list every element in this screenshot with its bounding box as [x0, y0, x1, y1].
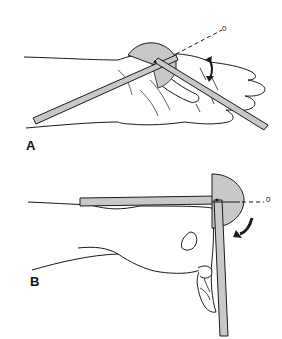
- goniometer-pivot-b: [216, 199, 219, 202]
- goniometer-stationary-arm-b: [80, 196, 218, 206]
- panel-a: 0 A: [0, 0, 282, 170]
- zero-marker-b: 0: [266, 195, 271, 204]
- motion-arrow-icon-b: [240, 218, 252, 234]
- goniometer-pivot: [154, 61, 157, 64]
- zero-reference-line: [176, 30, 222, 54]
- hand-outline-b: [32, 254, 200, 273]
- panel-label-b: B: [30, 274, 39, 289]
- panel-label-a: A: [26, 138, 35, 153]
- panel-b-illustration: 0: [0, 170, 282, 339]
- panel-b: 0 B: [0, 170, 282, 339]
- zero-marker-a: 0: [222, 24, 227, 33]
- panel-a-illustration: 0: [0, 0, 282, 170]
